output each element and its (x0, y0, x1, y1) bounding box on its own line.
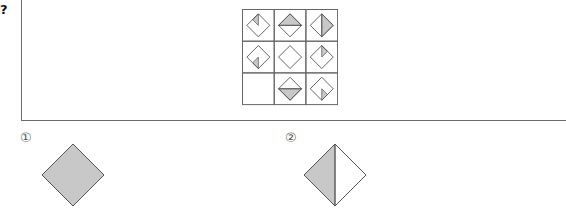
shaded-region (279, 14, 302, 26)
cell-diamond-icon (279, 77, 302, 100)
shaded-region (322, 46, 328, 58)
option-diamond-icon (304, 144, 366, 206)
option-diamond-icon (42, 144, 104, 206)
cell-diamond-icon (279, 14, 302, 37)
option-2-figure (300, 140, 370, 210)
cell-diamond-icon (310, 14, 333, 37)
shaded-region (279, 89, 302, 101)
puzzle-grid (242, 9, 338, 106)
cell-diamond-icon (279, 46, 302, 69)
shaded-region (253, 14, 259, 26)
shaded-region (42, 144, 104, 206)
option-2[interactable]: ② (285, 130, 375, 210)
shaded-region (304, 144, 335, 206)
shaded-region (322, 89, 328, 101)
shaded-region (322, 14, 334, 37)
grid-cell (243, 73, 275, 105)
option-1-figure (38, 140, 108, 210)
cell-diamond-icon (247, 46, 270, 69)
cell-diamond-icon (310, 46, 333, 69)
option-1[interactable]: ① (20, 130, 110, 210)
cell-diamond-icon (247, 14, 270, 37)
cell-diamond-icon (310, 77, 333, 100)
shaded-region (253, 57, 259, 69)
option-2-label: ② (285, 130, 297, 145)
option-1-label: ① (20, 130, 32, 145)
question-marker: ? (0, 3, 8, 16)
diamond-outline (279, 46, 302, 69)
